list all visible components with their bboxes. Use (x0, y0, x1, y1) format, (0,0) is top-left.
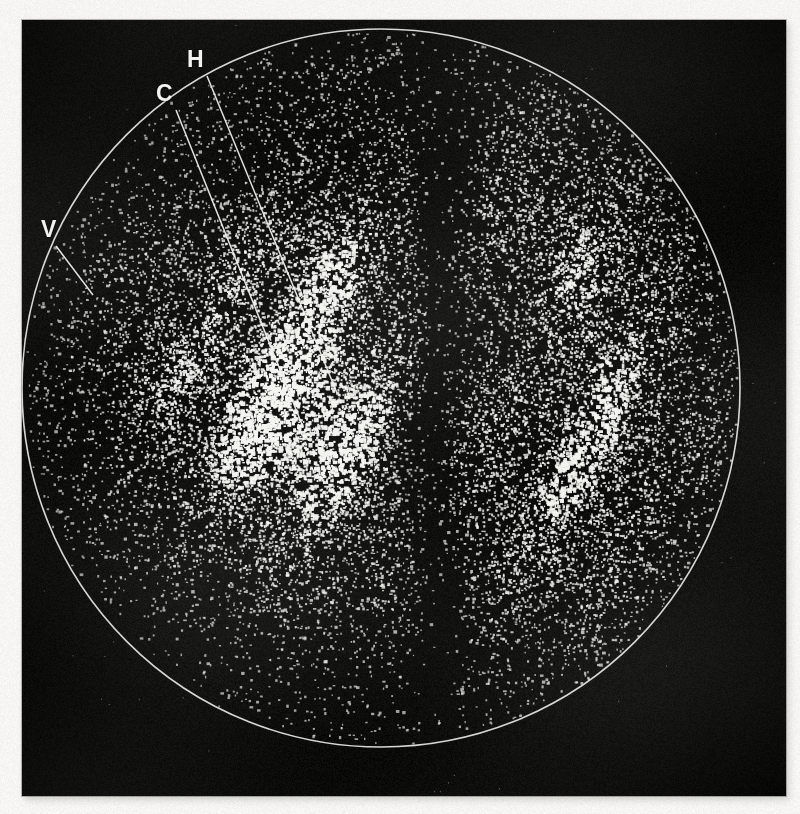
scintigram-page: H C V (0, 0, 800, 814)
scan-count-field (22, 20, 786, 796)
annotation-label-h: H (187, 48, 204, 71)
annotation-label-v: V (41, 218, 57, 241)
photographic-plate: H C V (22, 20, 786, 796)
annotation-label-c: C (156, 82, 173, 105)
